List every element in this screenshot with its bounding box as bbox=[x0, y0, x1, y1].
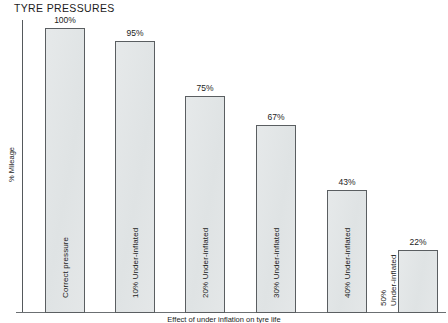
bar-chart-figure: TYRE PRESSURES % Mileage 100% Correct pr… bbox=[0, 0, 448, 323]
bar-group: 22% 50% Under-inflated bbox=[398, 0, 438, 313]
bar-rect[interactable]: 20% Under-inflated bbox=[185, 96, 225, 313]
bar-rect[interactable]: 50% Under-inflated bbox=[398, 250, 438, 313]
bar-category-label: Correct pressure bbox=[61, 237, 70, 298]
bar-value-label: 67% bbox=[267, 112, 284, 122]
bar-rect[interactable]: 30% Under-inflated bbox=[256, 125, 296, 313]
bar-category-label: 30% Under-inflated bbox=[272, 228, 281, 298]
bar-category-label-line1: 50% bbox=[379, 290, 388, 306]
bar-category-label: 40% Under-inflated bbox=[343, 228, 352, 298]
bar-value-label: 22% bbox=[409, 237, 426, 247]
bar-rect[interactable]: 10% Under-inflated bbox=[115, 41, 155, 313]
bar-group: 43% 40% Under-inflated bbox=[327, 0, 367, 313]
bar-rect[interactable]: Correct pressure bbox=[45, 28, 85, 313]
bar-category-label: 50% Under-inflated bbox=[379, 244, 399, 306]
plot-area: 100% Correct pressure 95% 10% Under-infl… bbox=[0, 0, 448, 313]
bar-group: 75% 20% Under-inflated bbox=[185, 0, 225, 313]
bar-value-label: 100% bbox=[54, 15, 76, 25]
bar-value-label: 75% bbox=[196, 83, 213, 93]
bar-group: 67% 30% Under-inflated bbox=[256, 0, 296, 313]
bar-value-label: 43% bbox=[338, 177, 355, 187]
bar-group: 100% Correct pressure bbox=[45, 0, 85, 313]
bar-category-label: 10% Under-inflated bbox=[131, 228, 140, 298]
bar-value-label: 95% bbox=[126, 28, 143, 38]
bar-category-label-line2: Under-inflated bbox=[389, 254, 398, 306]
bar-category-label: 20% Under-inflated bbox=[201, 228, 210, 298]
bar-rect[interactable]: 40% Under-inflated bbox=[327, 190, 367, 313]
x-axis-title: Effect of under inflation on tyre life bbox=[0, 315, 448, 323]
bar-group: 95% 10% Under-inflated bbox=[115, 0, 155, 313]
